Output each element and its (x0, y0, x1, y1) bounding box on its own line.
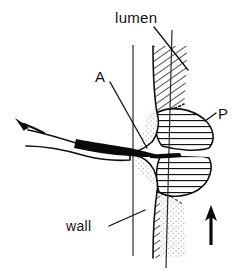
label-lumen: lumen (115, 9, 157, 26)
label-catheter-tip: A (95, 68, 105, 85)
anatomical-diagram: lumen A P wall (0, 0, 234, 277)
label-plaque: P (218, 105, 228, 122)
label-wall: wall (65, 218, 91, 234)
figure-container: lumen A P wall (0, 0, 234, 277)
